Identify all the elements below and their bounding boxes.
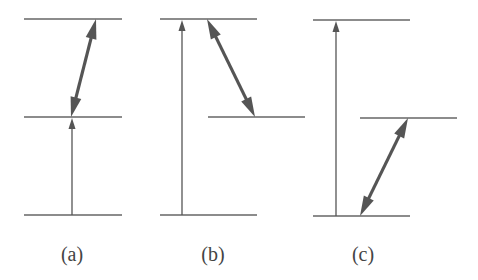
panel-b xyxy=(160,19,305,215)
panel-label-b: (b) xyxy=(201,243,224,266)
excitation-arrow xyxy=(333,21,340,216)
panel-label-c: (c) xyxy=(352,243,374,266)
double-headed-arrow xyxy=(71,19,97,117)
energy-level-diagram xyxy=(0,0,478,280)
panel-label-a: (a) xyxy=(61,243,83,266)
excitation-arrow xyxy=(179,20,186,215)
panel-a xyxy=(24,19,122,215)
double-headed-arrow xyxy=(207,19,255,117)
double-headed-arrow xyxy=(360,118,408,216)
excitation-arrow xyxy=(69,118,76,215)
panel-c xyxy=(313,20,457,216)
